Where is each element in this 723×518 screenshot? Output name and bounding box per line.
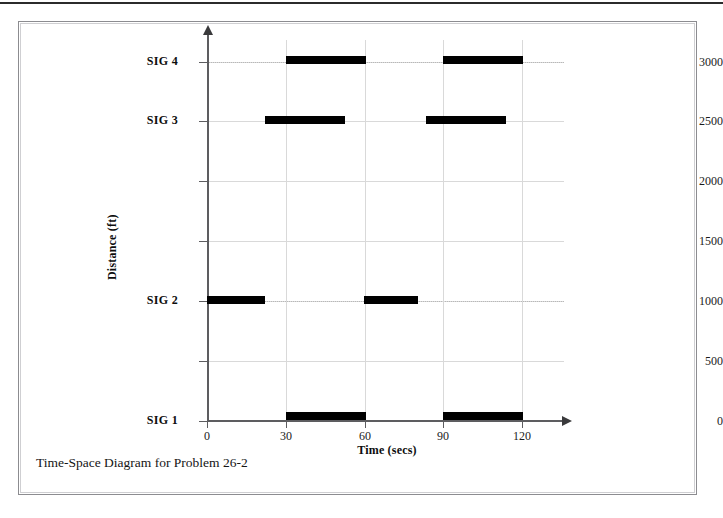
green-band-sig3-1 xyxy=(265,116,345,124)
x-tick-0 xyxy=(207,421,208,428)
x-tick-label-90: 90 xyxy=(423,429,463,444)
gridline-x-90 xyxy=(443,40,444,421)
y-tick-label-500: 500 xyxy=(527,354,723,369)
gridline-y-1500 xyxy=(209,241,564,242)
y-tick-1000 xyxy=(199,301,207,302)
x-tick-label-0: 0 xyxy=(187,429,227,444)
y-tick-1500 xyxy=(199,241,207,242)
green-band-sig1-2 xyxy=(443,412,523,420)
green-band-sig4-1 xyxy=(286,56,366,64)
x-tick-label-30: 30 xyxy=(266,429,306,444)
y-tick-label-3000: 3000 xyxy=(527,55,723,70)
green-band-sig1-1 xyxy=(286,412,366,420)
green-band-sig3-2 xyxy=(426,116,506,124)
x-tick-90 xyxy=(443,421,444,428)
signal-label-sig-1: SIG 1 xyxy=(80,413,178,428)
x-axis-line xyxy=(207,420,564,422)
time-space-chart: 3000 2500 2000 1500 1000 500 0 SIG 4 SIG… xyxy=(0,0,723,518)
x-tick-60 xyxy=(365,421,366,428)
signal-label-sig-2: SIG 2 xyxy=(80,293,178,308)
y-axis-arrow-icon xyxy=(203,25,213,35)
green-band-sig2-2 xyxy=(364,296,418,304)
x-axis-title: Time (secs) xyxy=(287,443,487,458)
green-band-sig2-1 xyxy=(207,296,265,304)
y-tick-2000 xyxy=(199,181,207,182)
figure-page: 3000 2500 2000 1500 1000 500 0 SIG 4 SIG… xyxy=(0,0,723,518)
figure-caption: Time-Space Diagram for Problem 26-2 xyxy=(36,455,248,471)
y-tick-label-1500: 1500 xyxy=(527,234,723,249)
gridline-y-2500 xyxy=(209,121,564,122)
gridline-y-500 xyxy=(209,361,564,362)
x-tick-120 xyxy=(522,421,523,428)
gridline-x-60 xyxy=(365,40,366,421)
y-tick-3000 xyxy=(199,62,207,63)
y-axis-title: Distance (ft) xyxy=(105,214,120,280)
y-tick-500 xyxy=(199,361,207,362)
x-tick-label-60: 60 xyxy=(345,429,385,444)
gridline-x-120 xyxy=(522,40,523,421)
signal-label-sig-4: SIG 4 xyxy=(80,54,178,69)
x-tick-30 xyxy=(286,421,287,428)
green-band-sig4-2 xyxy=(443,56,523,64)
y-tick-label-0: 0 xyxy=(527,414,723,429)
y-tick-2500 xyxy=(199,121,207,122)
y-tick-label-2000: 2000 xyxy=(527,174,723,189)
signal-label-sig-3: SIG 3 xyxy=(80,113,178,128)
y-tick-label-1000: 1000 xyxy=(527,294,723,309)
gridline-y-2000 xyxy=(209,181,564,182)
y-tick-label-2500: 2500 xyxy=(527,114,723,129)
x-tick-label-120: 120 xyxy=(502,429,542,444)
y-tick-0 xyxy=(199,421,207,422)
y-axis-line xyxy=(207,33,209,422)
gridline-x-30 xyxy=(286,40,287,421)
